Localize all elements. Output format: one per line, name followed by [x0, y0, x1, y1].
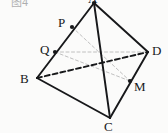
edge-AD	[94, 3, 148, 52]
vertex-dot-q	[53, 50, 57, 54]
vertex-label-B: B	[20, 72, 29, 85]
edge-BC	[37, 78, 110, 118]
vertex-label-D: D	[152, 44, 161, 57]
figure-caption: 图4	[11, 0, 28, 8]
vertex-label-Q: Q	[40, 43, 49, 56]
vertex-label-C: C	[104, 120, 113, 133]
vertex-dot-p	[70, 25, 74, 29]
vertex-label-P: P	[58, 16, 65, 29]
aux-QM	[55, 52, 130, 81]
edge-layer	[37, 3, 148, 118]
geometry-figure: 图4 A B C D P Q M	[0, 0, 168, 133]
figure-canvas	[0, 0, 168, 133]
vertex-label-A: A	[88, 0, 97, 5]
vertex-label-M: M	[134, 80, 146, 93]
vertex-dot-m	[128, 79, 132, 83]
